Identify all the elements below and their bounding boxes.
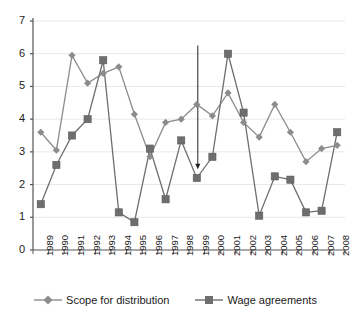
data-point-square — [193, 174, 200, 181]
data-point-square — [287, 176, 294, 183]
x-tick-label: 2000 — [216, 235, 226, 256]
data-point-square — [318, 207, 325, 214]
series-lines — [41, 54, 337, 222]
chart-legend: Scope for distribution Wage agreements — [0, 289, 351, 311]
x-tick-label: 2008 — [341, 235, 351, 256]
x-tick-label: 2001 — [232, 235, 242, 256]
data-point-square — [334, 129, 341, 136]
x-tick-label: 1996 — [154, 235, 164, 256]
data-point-square — [256, 212, 263, 219]
x-tick-label: 1999 — [201, 235, 211, 256]
y-tick-label: 1 — [11, 211, 25, 222]
x-tick-label: 1991 — [76, 235, 86, 256]
axis-lines — [30, 18, 345, 250]
data-point-square — [84, 116, 91, 123]
data-point-diamond — [162, 119, 169, 126]
x-tick-label: 1992 — [92, 235, 102, 256]
series-line-0 — [41, 55, 337, 161]
line-chart: 01234567 1989199019911992199319941995199… — [0, 0, 351, 316]
data-point-diamond — [287, 129, 294, 136]
data-point-square — [162, 196, 169, 203]
legend-item-wage-agreements: Wage agreements — [195, 294, 316, 306]
x-tick-label: 1994 — [123, 235, 133, 256]
y-tick-label: 6 — [11, 48, 25, 59]
x-tick-label: 2004 — [279, 235, 289, 256]
data-point-square — [37, 201, 44, 208]
legend-marker-diamond-icon — [34, 294, 62, 306]
x-tick-label: 1998 — [185, 235, 195, 256]
x-tick-label: 1993 — [107, 235, 117, 256]
x-tick-label: 2006 — [310, 235, 320, 256]
y-tick-label: 2 — [11, 179, 25, 190]
y-tick-label: 7 — [11, 15, 25, 26]
x-tick-label: 2002 — [248, 235, 258, 256]
y-tick-label: 3 — [11, 146, 25, 157]
data-point-square — [271, 173, 278, 180]
data-point-square — [178, 137, 185, 144]
downward-arrow-1999-head — [195, 164, 200, 170]
data-point-square — [131, 219, 138, 226]
data-point-diamond — [271, 101, 278, 108]
y-tick-label: 5 — [11, 80, 25, 91]
data-point-square — [224, 50, 231, 57]
legend-marker-square-icon — [195, 294, 223, 306]
data-point-diamond — [84, 80, 91, 87]
x-tick-label: 2007 — [326, 235, 336, 256]
data-point-square — [240, 109, 247, 116]
data-point-diamond — [224, 89, 231, 96]
data-point-square — [100, 57, 107, 64]
x-tick-label: 1990 — [60, 235, 70, 256]
legend-label-scope-for-distribution: Scope for distribution — [66, 295, 169, 306]
data-point-square — [302, 209, 309, 216]
series-markers — [37, 50, 341, 226]
data-point-diamond — [131, 111, 138, 118]
data-point-square — [209, 153, 216, 160]
legend-item-scope-for-distribution: Scope for distribution — [34, 294, 169, 306]
gridlines — [33, 21, 345, 217]
data-point-square — [53, 161, 60, 168]
x-tick-label: 2005 — [294, 235, 304, 256]
x-tick-label: 1989 — [45, 235, 55, 256]
data-point-square — [146, 145, 153, 152]
data-point-diamond — [68, 52, 75, 59]
data-point-square — [68, 132, 75, 139]
data-point-square — [115, 209, 122, 216]
annotation-layer — [195, 46, 200, 170]
x-tick-label: 1997 — [170, 235, 180, 256]
legend-label-wage-agreements: Wage agreements — [227, 295, 316, 306]
data-point-diamond — [115, 63, 122, 70]
x-tick-label: 1995 — [138, 235, 148, 256]
y-tick-label: 0 — [11, 244, 25, 255]
x-tick-label: 2003 — [263, 235, 273, 256]
plot-area — [0, 0, 351, 316]
y-tick-label: 4 — [11, 113, 25, 124]
